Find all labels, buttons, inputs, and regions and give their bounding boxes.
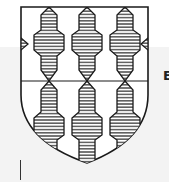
shield-illustration (0, 0, 169, 182)
shield (21, 7, 148, 165)
margin-mark (20, 160, 21, 180)
partial-glyph: E (163, 68, 169, 83)
